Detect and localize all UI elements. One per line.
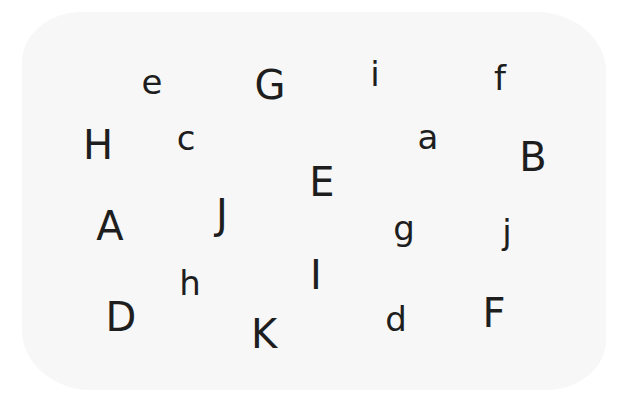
letter-c: c [177,121,196,155]
letter-f: f [494,61,506,95]
letter-board: e G i f H c a B E A J g j h I D K d F [0,0,632,404]
letter-F: F [482,293,505,333]
letter-A: A [96,206,123,246]
letter-H: H [83,125,113,165]
letter-a: a [418,120,439,154]
letter-J: J [216,194,228,234]
letter-h: h [179,266,201,300]
letter-D: D [106,297,137,337]
letter-d: d [385,302,407,336]
letter-j: j [502,215,511,249]
letter-K: K [251,314,277,354]
letter-E: E [309,162,334,202]
letter-B: B [519,137,546,177]
letter-i: i [370,57,379,91]
letter-I: I [310,255,322,295]
letter-G: G [255,65,286,105]
letter-e: e [142,65,163,99]
letter-g: g [393,211,415,245]
